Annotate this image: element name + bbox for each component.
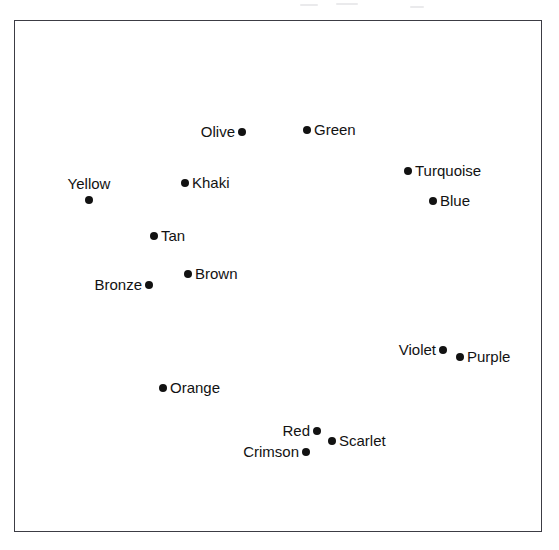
data-point-marker: [145, 281, 153, 289]
data-point-label: Olive: [201, 124, 235, 139]
data-point-label: Brown: [195, 266, 238, 281]
data-point-marker: [159, 384, 167, 392]
data-point-label: Orange: [170, 380, 220, 395]
data-point-marker: [85, 196, 93, 204]
data-point-label: Green: [314, 122, 356, 137]
data-point-marker: [439, 346, 447, 354]
data-point-marker: [150, 232, 158, 240]
data-point-label: Crimson: [243, 444, 299, 459]
data-point-marker: [238, 128, 246, 136]
data-point-marker: [181, 179, 189, 187]
data-point-label: Violet: [399, 342, 436, 357]
data-point-label: Turquoise: [415, 163, 481, 178]
data-point-label: Purple: [467, 349, 510, 364]
data-point-label: Tan: [161, 228, 185, 243]
scan-artifact: [300, 4, 318, 6]
scan-artifact: [336, 3, 358, 5]
data-point-marker: [184, 270, 192, 278]
data-point-label: Bronze: [94, 277, 142, 292]
data-point-marker: [429, 197, 437, 205]
scan-artifact: [410, 6, 424, 8]
data-point-label: Yellow: [68, 176, 111, 191]
data-point-marker: [404, 167, 412, 175]
data-point-label: Khaki: [192, 175, 230, 190]
data-point-label: Red: [282, 423, 310, 438]
data-point-marker: [328, 437, 336, 445]
data-point-marker: [302, 448, 310, 456]
data-point-label: Blue: [440, 193, 470, 208]
data-point-marker: [456, 353, 464, 361]
data-point-marker: [303, 126, 311, 134]
data-point-label: Scarlet: [339, 433, 386, 448]
plot-area-frame: OliveGreenTurquoiseYellowKhakiBlueTanBro…: [14, 20, 542, 532]
data-point-marker: [313, 427, 321, 435]
scatter-plot-figure: OliveGreenTurquoiseYellowKhakiBlueTanBro…: [0, 0, 559, 550]
